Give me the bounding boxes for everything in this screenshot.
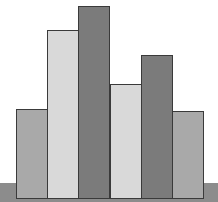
bar-4 — [110, 84, 142, 199]
bar-1 — [16, 109, 48, 199]
bar-5 — [141, 55, 173, 199]
bar-chart — [0, 0, 218, 202]
bar-6 — [172, 111, 204, 199]
bar-2 — [47, 30, 79, 199]
bar-3 — [78, 6, 110, 199]
